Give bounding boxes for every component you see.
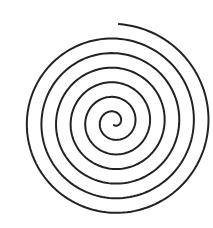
spiral-canvas bbox=[0, 0, 213, 228]
spiral-line bbox=[27, 24, 209, 213]
